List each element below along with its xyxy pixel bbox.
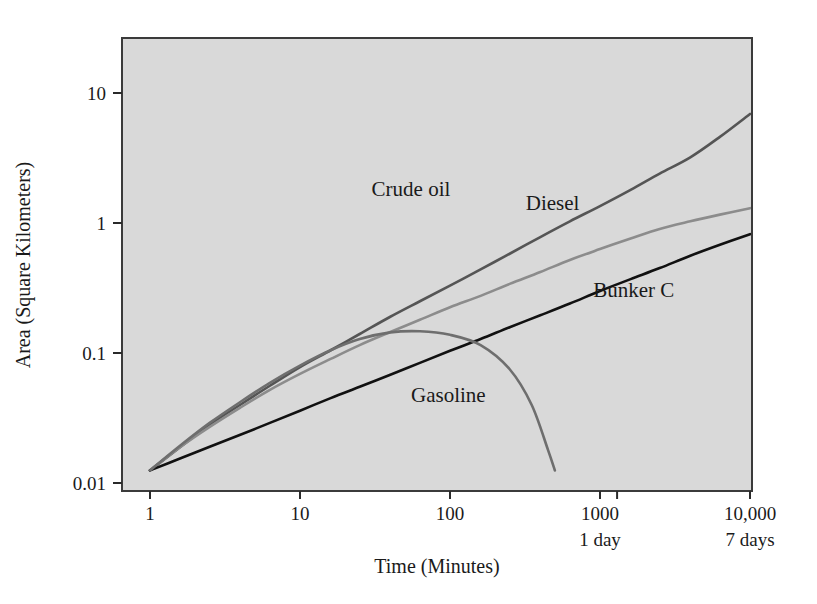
y-tick-label: 1 bbox=[97, 213, 107, 234]
x-tick-sublabel: 7 days bbox=[725, 529, 774, 550]
x-tick-sublabel: 1 day bbox=[579, 529, 621, 550]
x-axis-title: Time (Minutes) bbox=[374, 555, 499, 578]
x-tick-label: 1000 bbox=[581, 503, 619, 524]
annotation-diesel: Diesel bbox=[526, 191, 580, 215]
y-tick-label: 0.01 bbox=[73, 473, 106, 494]
annotation-bunker-c: Bunker C bbox=[593, 278, 674, 302]
y-axis-title: Area (Square Kilometers) bbox=[12, 162, 35, 369]
chart-figure: 11010010001 day10,0007 days 0.010.1110 C… bbox=[0, 0, 817, 604]
x-tick-label: 10,000 bbox=[724, 503, 776, 524]
annotation-gasoline: Gasoline bbox=[411, 383, 486, 407]
y-axis-ticks: 0.010.1110 bbox=[73, 83, 122, 494]
x-tick-label: 100 bbox=[436, 503, 465, 524]
x-tick-label: 1 bbox=[145, 503, 155, 524]
x-tick-label: 10 bbox=[291, 503, 310, 524]
log-log-line-chart: 11010010001 day10,0007 days 0.010.1110 C… bbox=[0, 0, 817, 604]
x-axis-ticks: 11010010001 day10,0007 days bbox=[145, 491, 776, 550]
y-tick-label: 0.1 bbox=[82, 343, 106, 364]
y-tick-label: 10 bbox=[87, 83, 106, 104]
annotation-crude-oil: Crude oil bbox=[372, 177, 451, 201]
